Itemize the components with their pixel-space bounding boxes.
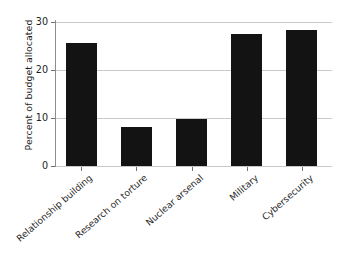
- y-axis-title: Percent of budget allocated: [22, 5, 36, 165]
- x-tick-mark: [247, 167, 248, 171]
- bar-chart-figure: Percent of budget allocated 0102030 Rela…: [0, 0, 343, 259]
- y-tick-label: 30: [24, 17, 48, 27]
- x-tick-label: Relationship building: [0, 172, 94, 259]
- x-tick-mark: [302, 167, 303, 171]
- plot-area: [56, 22, 332, 166]
- bar[interactable]: [286, 30, 317, 166]
- gridline: [56, 166, 332, 167]
- y-tick-label: 20: [24, 65, 48, 75]
- y-tick-label: 0: [24, 161, 48, 171]
- x-tick-mark: [192, 167, 193, 171]
- y-tick-label: 10: [24, 113, 48, 123]
- gridline: [56, 22, 332, 23]
- x-tick-mark: [81, 167, 82, 171]
- bar[interactable]: [121, 127, 152, 166]
- x-tick-mark: [136, 167, 137, 171]
- bar[interactable]: [66, 43, 97, 166]
- bar[interactable]: [231, 34, 262, 166]
- bar[interactable]: [176, 119, 207, 166]
